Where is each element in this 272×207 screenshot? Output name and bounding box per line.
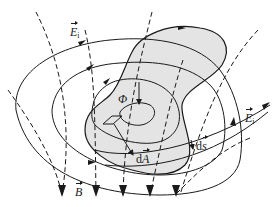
diagram-canvas (0, 0, 272, 207)
label-flux: Φ (118, 93, 127, 105)
label-induced-field-right: Ei (245, 112, 255, 126)
symbol: E (70, 26, 77, 38)
symbol: s (202, 140, 207, 152)
symbol: E (245, 112, 252, 124)
subscript: i (252, 117, 254, 126)
label-line-element: ds (196, 140, 207, 152)
subscript: i (77, 31, 79, 40)
symbol: A (142, 153, 149, 165)
label-area-element: dA (136, 153, 149, 165)
label-magnetic-field: B (75, 186, 82, 198)
label-induced-field-top: Ei (70, 26, 80, 40)
symbol: B (75, 186, 82, 198)
field-diagram: Ei Φ Ei dA ds B (0, 0, 272, 207)
